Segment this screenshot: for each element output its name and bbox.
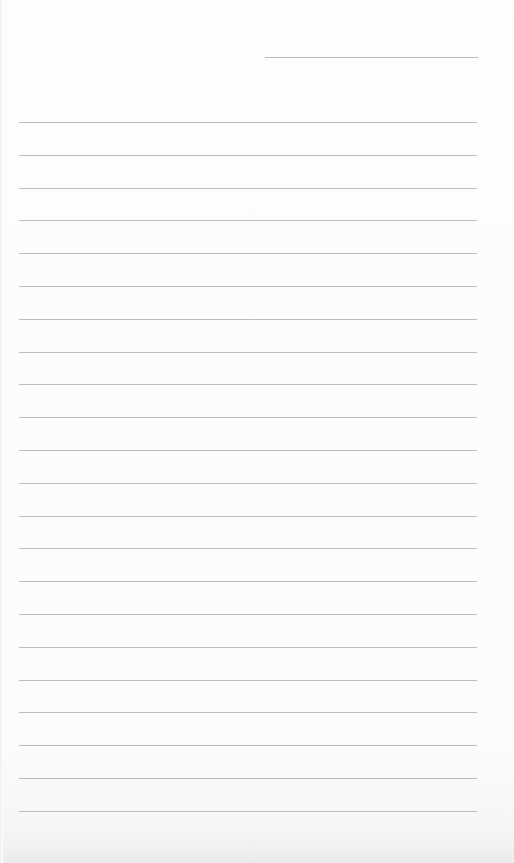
ruled-line: [19, 352, 477, 353]
ruled-line: [19, 647, 477, 648]
ruled-line: [19, 712, 477, 713]
lined-paper-page: [0, 0, 514, 863]
ruled-line: [19, 122, 477, 123]
ruled-line: [19, 188, 477, 189]
header-date-line: [265, 57, 478, 58]
ruled-line: [19, 778, 477, 779]
ruled-line: [19, 483, 477, 484]
ruled-line: [19, 220, 477, 221]
ruled-line: [19, 450, 477, 451]
ruled-line: [19, 155, 477, 156]
ruled-line: [19, 253, 477, 254]
ruled-line: [19, 581, 477, 582]
ruled-line: [19, 680, 477, 681]
ruled-line: [19, 319, 477, 320]
ruled-line: [19, 417, 477, 418]
ruled-line: [19, 745, 477, 746]
ruled-line: [19, 384, 477, 385]
ruled-line: [19, 811, 477, 812]
ruled-line: [19, 286, 477, 287]
ruled-line: [19, 516, 477, 517]
ruled-line: [19, 614, 477, 615]
page-edge-shadow: [0, 0, 3, 863]
ruled-line: [19, 548, 477, 549]
